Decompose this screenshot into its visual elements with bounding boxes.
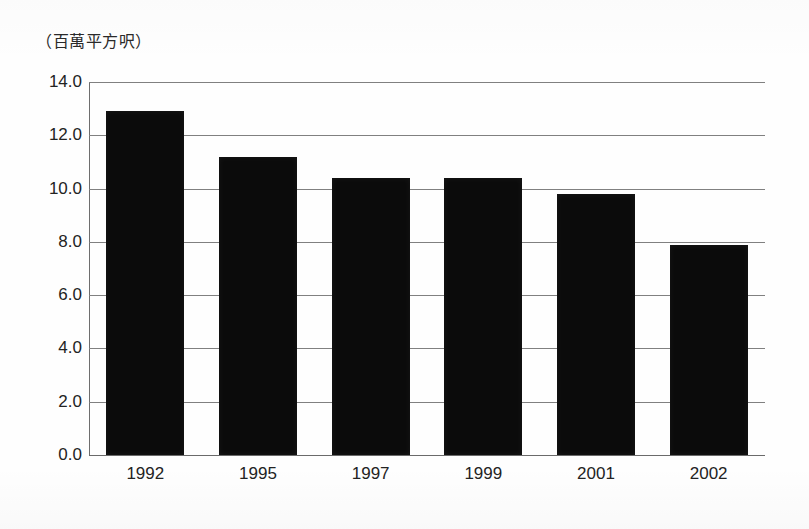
gridline (89, 242, 765, 243)
plot-area (89, 82, 765, 455)
gridline (89, 295, 765, 296)
y-tick-label: 2.0 (26, 392, 82, 412)
y-axis-tick-labels: 14.012.010.08.06.04.02.00.0 (20, 82, 82, 455)
gridline (89, 189, 765, 190)
bar-1997 (332, 178, 410, 455)
x-tick-label: 1995 (239, 464, 277, 484)
x-tick-label: 1992 (126, 464, 164, 484)
gridline (89, 82, 765, 83)
bar-2001 (557, 194, 635, 455)
y-tick-label: 14.0 (26, 72, 82, 92)
gridline (89, 135, 765, 136)
unit-caption: （百萬平方呎） (36, 28, 152, 52)
x-tick-label: 2001 (577, 464, 615, 484)
y-tick-label: 12.0 (26, 125, 82, 145)
y-tick-label: 10.0 (26, 179, 82, 199)
bar-1992 (106, 111, 184, 455)
y-tick-label: 0.0 (26, 445, 82, 465)
x-tick-label: 1999 (464, 464, 502, 484)
y-tick-label: 8.0 (26, 232, 82, 252)
gridline (89, 348, 765, 349)
gridline (89, 402, 765, 403)
x-axis-tick-labels: 199219951997199920012002 (89, 464, 765, 492)
x-tick-label: 2002 (690, 464, 728, 484)
y-tick-label: 4.0 (26, 338, 82, 358)
bar-chart-figure: （百萬平方呎） 14.012.010.08.06.04.02.00.0 1992… (0, 0, 809, 529)
y-tick-label: 6.0 (26, 285, 82, 305)
bar-1999 (444, 178, 522, 455)
x-tick-label: 1997 (352, 464, 390, 484)
bar-1995 (219, 157, 297, 455)
bar-2002 (670, 245, 748, 455)
gridline (89, 455, 765, 456)
